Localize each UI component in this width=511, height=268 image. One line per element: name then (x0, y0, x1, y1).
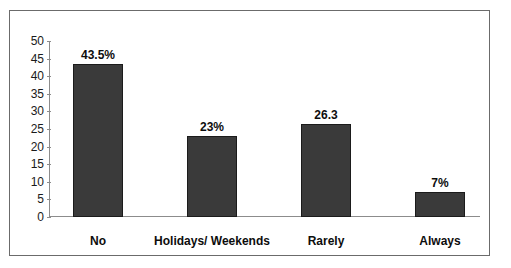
bar-value-label: 26.3 (314, 109, 337, 121)
y-tick-label: 35 (31, 88, 44, 100)
bar[interactable]: 23% (187, 136, 237, 217)
bar-value-label: 23% (200, 121, 224, 133)
bar[interactable]: 7% (415, 192, 465, 217)
y-tick-label: 10 (31, 176, 44, 188)
y-tick-mark (47, 94, 51, 95)
bar[interactable]: 26.3 (301, 124, 351, 217)
y-tick-mark (47, 59, 51, 60)
y-tick-mark (47, 41, 51, 42)
chart-frame: 05101520253035404550 43.5%23%26.37% NoHo… (9, 10, 490, 256)
bar-value-label: 7% (431, 177, 448, 189)
category-label: Always (419, 235, 460, 247)
y-tick-mark (47, 111, 51, 112)
y-tick-label: 45 (31, 53, 44, 65)
bar[interactable]: 43.5% (73, 64, 123, 217)
category-label: Rarely (308, 235, 345, 247)
y-tick-mark (47, 129, 51, 130)
y-tick-mark (47, 199, 51, 200)
y-tick-label: 20 (31, 141, 44, 153)
y-tick-mark (47, 217, 51, 218)
y-tick-mark (47, 182, 51, 183)
y-tick-mark (47, 147, 51, 148)
y-tick-label: 15 (31, 158, 44, 170)
category-label: No (90, 235, 106, 247)
y-tick-label: 0 (37, 211, 44, 223)
y-tick-mark (47, 164, 51, 165)
bar-value-label: 43.5% (81, 49, 115, 61)
y-tick-label: 25 (31, 123, 44, 135)
category-label: Holidays/ Weekends (154, 235, 270, 247)
y-tick-label: 30 (31, 105, 44, 117)
y-tick-label: 40 (31, 70, 44, 82)
y-tick-label: 5 (37, 193, 44, 205)
y-tick-label: 50 (31, 35, 44, 47)
y-tick-mark (47, 76, 51, 77)
plot-area: 05101520253035404550 43.5%23%26.37% (49, 31, 480, 217)
